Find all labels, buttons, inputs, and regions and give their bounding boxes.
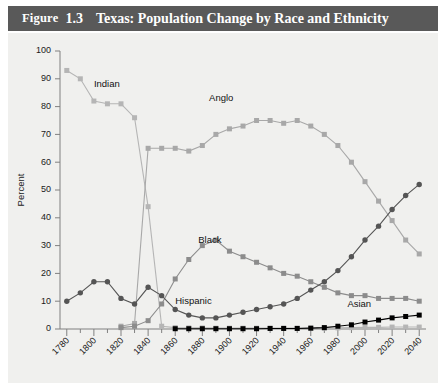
x-tick-label: 1860 — [158, 335, 179, 356]
data-point — [322, 325, 327, 330]
data-point — [349, 322, 354, 327]
x-tick-label: 1840 — [131, 335, 152, 356]
data-point — [254, 307, 259, 312]
y-tick-label: 10 — [41, 296, 51, 306]
data-point — [119, 101, 124, 106]
y-tick-label: 0 — [46, 323, 51, 333]
series-label-anglo: Anglo — [209, 92, 233, 103]
x-tick-label: 2040 — [402, 335, 423, 356]
figure-label-word: Figure — [22, 11, 58, 26]
data-point — [390, 315, 395, 320]
data-point — [295, 274, 300, 279]
data-point — [78, 76, 83, 81]
data-point — [118, 296, 123, 301]
data-point — [268, 118, 273, 123]
data-point — [335, 324, 340, 329]
data-point — [295, 296, 300, 301]
series-label-hispanic: Hispanic — [175, 295, 212, 306]
data-point — [240, 310, 245, 315]
y-tick-label: 50 — [41, 184, 51, 194]
data-point — [227, 249, 232, 254]
data-point — [227, 126, 232, 131]
figure-title-bar: Figure 1.3 Texas: Population Change by R… — [8, 6, 438, 31]
data-point — [145, 285, 150, 290]
data-point — [390, 296, 395, 301]
series-indian — [64, 68, 421, 331]
y-tick-label: 40 — [41, 212, 51, 222]
data-point — [254, 118, 259, 123]
x-tick-label: 1960 — [294, 335, 315, 356]
data-point — [241, 326, 246, 331]
data-point — [159, 146, 164, 151]
data-point — [376, 325, 381, 330]
data-point — [335, 290, 340, 295]
data-point — [227, 326, 232, 331]
y-tick-label: 100 — [36, 45, 51, 55]
data-point — [322, 132, 327, 137]
data-point — [363, 320, 368, 325]
data-point — [322, 285, 327, 290]
series-line — [121, 240, 419, 328]
series-asian — [173, 313, 422, 332]
data-point — [200, 315, 205, 320]
data-point — [241, 254, 246, 259]
x-tick-label: 1900 — [213, 335, 234, 356]
data-point — [213, 326, 218, 331]
y-tick-label: 70 — [41, 129, 51, 139]
series-layer — [64, 68, 422, 331]
y-tick-label: 60 — [41, 157, 51, 167]
data-point — [335, 143, 340, 148]
data-point — [64, 68, 69, 73]
data-point — [403, 238, 408, 243]
x-tick-label: 1980 — [321, 335, 342, 356]
data-point — [186, 312, 191, 317]
y-axis-title: Percent — [15, 173, 26, 206]
data-point — [295, 118, 300, 123]
data-point — [417, 325, 422, 330]
y-tick-label: 90 — [41, 73, 51, 83]
data-point — [335, 268, 340, 273]
data-point — [227, 312, 232, 317]
data-point — [349, 254, 354, 259]
data-point — [376, 223, 381, 228]
data-point — [159, 324, 164, 329]
x-tick-label: 1780 — [50, 335, 71, 356]
y-tick-label: 20 — [41, 268, 51, 278]
data-point — [64, 299, 69, 304]
data-point — [200, 143, 205, 148]
data-point — [308, 279, 313, 284]
data-point — [254, 326, 259, 331]
data-point — [254, 260, 259, 265]
data-point — [200, 326, 205, 331]
data-point — [105, 101, 110, 106]
y-tick-label: 80 — [41, 101, 51, 111]
x-axis: 1780180018201840186018801900192019401960… — [50, 329, 426, 357]
data-point — [363, 325, 368, 330]
data-point — [267, 304, 272, 309]
plot-area: 0102030405060708090100 17801800182018401… — [8, 33, 438, 383]
data-point — [376, 199, 381, 204]
data-point — [186, 257, 191, 262]
data-point — [91, 279, 96, 284]
data-point — [295, 326, 300, 331]
data-point — [173, 307, 178, 312]
data-point — [132, 324, 137, 329]
series-black — [119, 238, 422, 331]
x-tick-label: 1940 — [267, 335, 288, 356]
data-point — [186, 326, 191, 331]
data-point — [268, 326, 273, 331]
data-point — [389, 207, 394, 212]
data-point — [417, 251, 422, 256]
data-point — [159, 293, 164, 298]
data-point — [403, 314, 408, 319]
data-point — [281, 326, 286, 331]
data-point — [105, 279, 110, 284]
data-point — [281, 301, 286, 306]
figure-title: Texas: Population Change by Race and Eth… — [96, 11, 389, 27]
data-point — [146, 146, 151, 151]
population-change-line-chart: 0102030405060708090100 17801800182018401… — [8, 33, 438, 383]
data-point — [349, 160, 354, 165]
y-axis: 0102030405060708090100 — [36, 45, 60, 333]
series-label-black: Black — [198, 234, 221, 245]
data-point — [308, 287, 313, 292]
